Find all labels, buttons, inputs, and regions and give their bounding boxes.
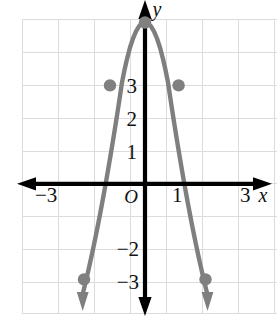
y-tick-label-3: 3 xyxy=(127,74,138,98)
y-axis-label: y xyxy=(151,0,162,21)
data-point-vertex xyxy=(139,16,151,28)
data-point xyxy=(78,273,90,285)
origin-label: O xyxy=(124,186,138,207)
y-tick-label-neg2: −2 xyxy=(117,237,139,261)
x-axis-label: x xyxy=(258,184,268,206)
x-tick-label-neg3: −3 xyxy=(35,183,57,207)
x-tick-label-1: 1 xyxy=(172,183,183,207)
y-tick-label-neg3: −3 xyxy=(117,270,139,294)
data-point xyxy=(199,273,211,285)
x-tick-label-3: 3 xyxy=(240,183,251,207)
y-tick-label-1: 1 xyxy=(127,140,138,164)
data-point xyxy=(104,79,116,91)
figure-background xyxy=(0,0,279,320)
coordinate-plane-svg: −3 1 3 3 2 1 −2 −3 O x y xyxy=(0,0,279,320)
y-tick-label-2: 2 xyxy=(127,107,138,131)
graph-figure: −3 1 3 3 2 1 −2 −3 O x y xyxy=(0,0,279,320)
data-point xyxy=(172,79,184,91)
